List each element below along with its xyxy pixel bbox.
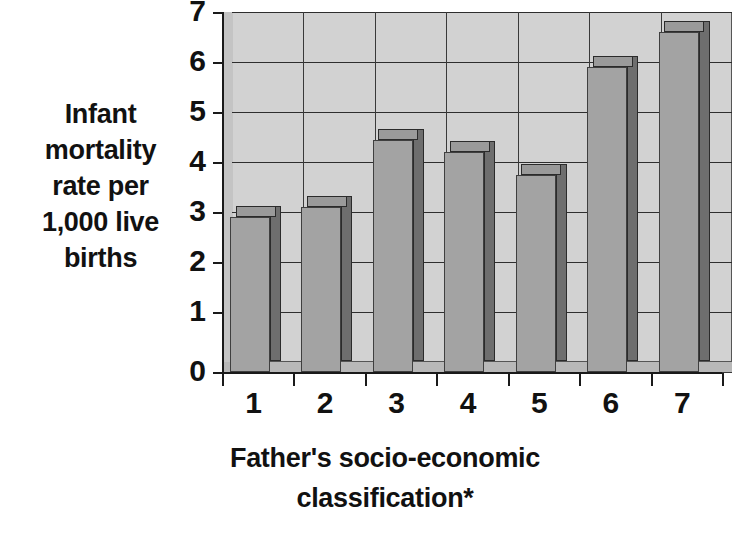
x-axis-line <box>222 372 722 374</box>
y-tick-label-5: 5 <box>166 96 206 126</box>
x-tick-mark-5 <box>579 372 581 386</box>
y-tick-label-6: 6 <box>166 46 206 76</box>
x-tick-label-5: 5 <box>509 388 569 418</box>
bar-top-face-3 <box>378 129 418 140</box>
bar-6 <box>587 67 627 372</box>
bar-side-face-7 <box>699 21 710 361</box>
bar-side-face-2 <box>341 196 352 361</box>
gridline-y-7 <box>232 12 732 13</box>
y-tick-label-4: 4 <box>166 146 206 176</box>
y-tick-label-0: 0 <box>166 356 206 386</box>
plot-area <box>222 22 722 372</box>
bar-side-face-5 <box>556 164 567 362</box>
bar-front-face-3 <box>373 140 413 373</box>
y-tick-label-7: 7 <box>166 0 206 26</box>
y-tick-mark-0 <box>213 372 222 374</box>
bar-top-face-2 <box>307 196 347 207</box>
bar-4 <box>444 152 484 372</box>
y-tick-mark-6 <box>213 62 222 64</box>
bar-top-face-4 <box>450 141 490 152</box>
y-tick-mark-1 <box>213 312 222 314</box>
x-tick-label-7: 7 <box>652 388 712 418</box>
x-tick-mark-6 <box>651 372 653 386</box>
bar-side-face-3 <box>413 129 424 362</box>
bar-7 <box>659 32 699 372</box>
x-tick-mark-7 <box>722 372 724 386</box>
x-axis-title-line-2: classification* <box>150 478 620 518</box>
x-tick-mark-4 <box>508 372 510 386</box>
y-tick-mark-5 <box>213 112 222 114</box>
x-tick-label-6: 6 <box>581 388 641 418</box>
y-tick-mark-4 <box>213 162 222 164</box>
bar-5 <box>516 175 556 373</box>
bar-2 <box>301 207 341 372</box>
x-tick-mark-2 <box>365 372 367 386</box>
bar-top-face-1 <box>236 206 276 217</box>
x-tick-mark-1 <box>293 372 295 386</box>
bar-side-face-6 <box>627 56 638 361</box>
bar-front-face-4 <box>444 152 484 372</box>
gridline-y-5 <box>232 112 732 113</box>
chart-container: Infant mortality rate per 1,000 live bir… <box>0 0 754 538</box>
x-tick-label-2: 2 <box>295 388 355 418</box>
x-axis-title: Father's socio-economic classification* <box>150 438 620 518</box>
y-tick-mark-2 <box>213 262 222 264</box>
gridline-y-6 <box>232 62 732 63</box>
x-tick-label-4: 4 <box>438 388 498 418</box>
y-tick-mark-7 <box>213 12 222 14</box>
x-tick-mark-origin <box>222 372 224 386</box>
bar-front-face-2 <box>301 207 341 372</box>
bar-side-face-4 <box>484 141 495 361</box>
bar-top-face-6 <box>593 56 633 67</box>
bar-front-face-1 <box>230 217 270 372</box>
y-tick-label-3: 3 <box>166 196 206 226</box>
bar-1 <box>230 217 270 372</box>
x-tick-label-1: 1 <box>224 388 284 418</box>
x-tick-mark-3 <box>436 372 438 386</box>
x-tick-label-3: 3 <box>367 388 427 418</box>
bar-front-face-5 <box>516 175 556 373</box>
bar-side-face-1 <box>270 206 281 361</box>
bar-front-face-6 <box>587 67 627 372</box>
y-tick-label-1: 1 <box>166 296 206 326</box>
bar-front-face-7 <box>659 32 699 372</box>
x-axis-title-line-1: Father's socio-economic <box>150 438 620 478</box>
bar-top-face-7 <box>664 21 704 32</box>
y-axis-line <box>222 12 224 374</box>
bar-top-face-5 <box>521 164 561 175</box>
y-tick-mark-3 <box>213 212 222 214</box>
y-tick-label-2: 2 <box>166 246 206 276</box>
bar-3 <box>373 140 413 373</box>
